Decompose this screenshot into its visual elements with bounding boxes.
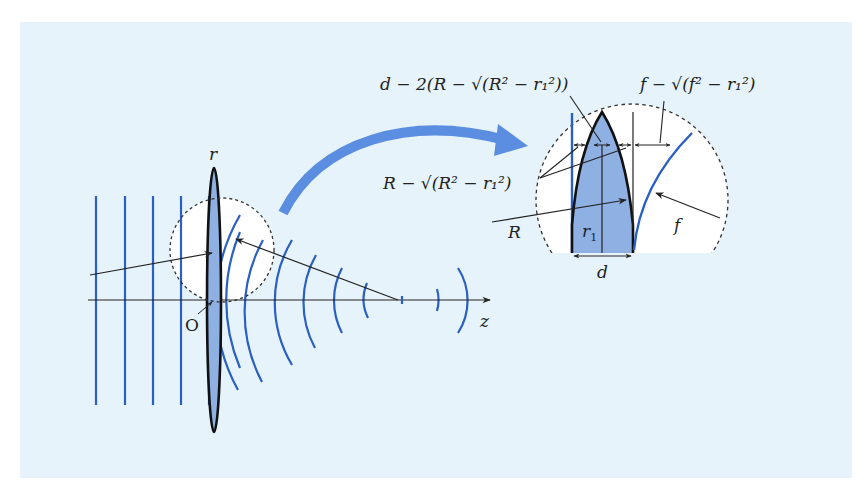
magnify-arrow-head (494, 124, 528, 156)
label-d: d (597, 262, 608, 282)
lens (207, 168, 221, 432)
inset-view: R r1 f d d − 2(R − √(R² − r₁²)) f − √(f²… (380, 74, 755, 296)
expr-sag-focus: f − √(f² − r₁²) (638, 74, 755, 94)
expr-center-thickness: d − 2(R − √(R² − r₁²)) (380, 74, 568, 94)
expr-sag-lens: R − √(R² − r₁²) (382, 173, 511, 193)
r-axis-label: r (209, 144, 218, 164)
z-axis-label: z (479, 311, 490, 331)
label-R: R (507, 222, 521, 242)
lens-diagram: r z O (0, 0, 867, 495)
origin-label: O (185, 315, 199, 335)
magnify-arrow (283, 131, 505, 213)
